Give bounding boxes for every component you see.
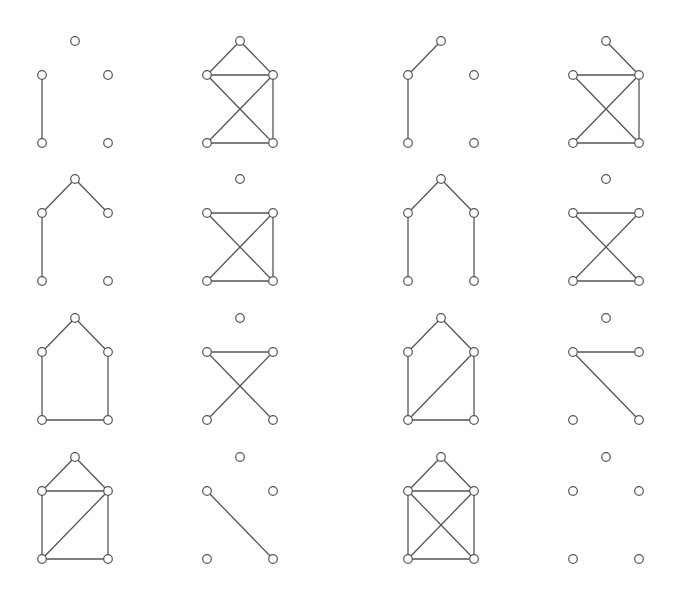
vertex-top — [71, 314, 80, 323]
vertex-left — [569, 348, 578, 357]
vertex-right — [635, 348, 644, 357]
graph-11 — [404, 314, 479, 425]
vertex-top — [71, 175, 80, 184]
edge-top-left — [42, 457, 75, 491]
vertex-bottom-left — [203, 139, 212, 148]
vertex-left — [38, 209, 47, 218]
vertex-bottom-left — [203, 277, 212, 286]
vertex-right — [470, 348, 479, 357]
vertex-bottom-left — [203, 555, 212, 564]
vertex-top — [236, 453, 245, 462]
vertex-bottom-right — [104, 555, 113, 564]
vertex-bottom-right — [470, 277, 479, 286]
vertex-left — [404, 209, 413, 218]
vertex-bottom-left — [404, 277, 413, 286]
vertex-bottom-right — [269, 277, 278, 286]
graph-10 — [203, 314, 278, 425]
vertex-left — [569, 209, 578, 218]
vertex-bottom-right — [635, 555, 644, 564]
vertex-top — [71, 453, 80, 462]
edge-top-right — [441, 179, 474, 213]
vertex-right — [635, 487, 644, 496]
vertex-bottom-left — [404, 555, 413, 564]
edge-top-left — [408, 457, 441, 491]
vertex-bottom-right — [104, 277, 113, 286]
vertex-right — [269, 71, 278, 80]
vertex-left — [569, 487, 578, 496]
vertex-bottom-left — [404, 416, 413, 425]
vertex-left — [404, 348, 413, 357]
edge-top-left — [207, 41, 240, 75]
vertex-right — [269, 348, 278, 357]
vertex-top — [437, 37, 446, 46]
graph-13 — [38, 453, 113, 564]
graph-5 — [38, 175, 113, 286]
vertex-top — [602, 37, 611, 46]
vertex-left — [203, 209, 212, 218]
edge-top-right — [75, 318, 108, 352]
vertex-bottom-left — [569, 555, 578, 564]
vertex-right — [269, 209, 278, 218]
graph-grid-diagram — [0, 0, 680, 599]
vertex-bottom-right — [635, 139, 644, 148]
vertex-bottom-right — [635, 277, 644, 286]
edge-top-left — [408, 318, 441, 352]
vertex-top — [602, 175, 611, 184]
edge-left-bottom-right — [573, 352, 639, 420]
graph-2 — [203, 37, 278, 148]
graph-3 — [404, 37, 479, 148]
vertex-left — [404, 71, 413, 80]
vertex-right — [104, 348, 113, 357]
edge-top-right — [441, 318, 474, 352]
vertex-bottom-right — [269, 139, 278, 148]
vertex-right — [470, 487, 479, 496]
vertex-bottom-left — [569, 277, 578, 286]
edge-top-right — [75, 179, 108, 213]
vertex-bottom-left — [569, 416, 578, 425]
vertex-top — [602, 453, 611, 462]
edge-top-right — [606, 41, 639, 75]
edge-left-bottom-right — [207, 491, 273, 559]
vertex-bottom-left — [38, 277, 47, 286]
vertex-right — [104, 487, 113, 496]
graph-15 — [404, 453, 479, 564]
vertex-right — [104, 71, 113, 80]
vertex-right — [635, 71, 644, 80]
edge-right-bottom-left — [42, 491, 108, 559]
vertex-bottom-right — [635, 416, 644, 425]
vertex-left — [38, 348, 47, 357]
vertex-bottom-left — [569, 139, 578, 148]
edge-top-left — [408, 179, 441, 213]
vertex-top — [236, 175, 245, 184]
vertex-top — [437, 314, 446, 323]
vertex-top — [437, 175, 446, 184]
vertex-top — [236, 314, 245, 323]
vertex-bottom-right — [470, 139, 479, 148]
graph-8 — [569, 175, 644, 286]
vertex-left — [38, 487, 47, 496]
edge-top-left — [408, 41, 441, 75]
vertex-bottom-left — [38, 139, 47, 148]
graph-6 — [203, 175, 278, 286]
vertex-bottom-right — [104, 139, 113, 148]
vertex-top — [437, 453, 446, 462]
vertex-left — [38, 71, 47, 80]
edge-top-left — [42, 179, 75, 213]
vertex-left — [203, 348, 212, 357]
vertex-bottom-left — [38, 555, 47, 564]
vertex-right — [470, 71, 479, 80]
vertex-bottom-right — [269, 416, 278, 425]
vertex-bottom-right — [104, 416, 113, 425]
vertex-top — [236, 37, 245, 46]
vertex-left — [203, 487, 212, 496]
edge-top-right — [240, 41, 273, 75]
vertex-bottom-right — [470, 416, 479, 425]
graph-1 — [38, 37, 113, 148]
vertex-right — [269, 487, 278, 496]
vertex-top — [71, 37, 80, 46]
vertex-top — [602, 314, 611, 323]
edge-top-right — [441, 457, 474, 491]
graph-14 — [203, 453, 278, 564]
edge-right-bottom-left — [408, 352, 474, 420]
graph-16 — [569, 453, 644, 564]
